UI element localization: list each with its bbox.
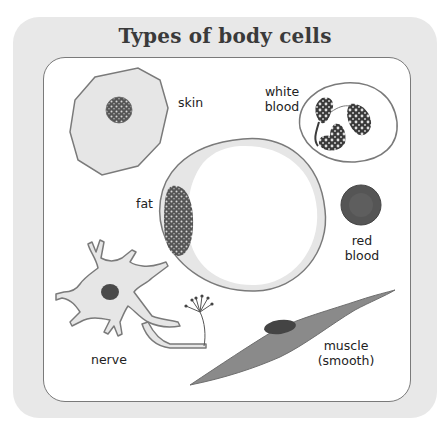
label-muscle-line1: muscle <box>313 338 379 353</box>
label-white-blood: white blood <box>260 84 304 114</box>
label-red-blood-line2: blood <box>340 248 384 263</box>
label-red-blood: red blood <box>340 233 384 263</box>
skin-cell-icon <box>70 68 168 175</box>
label-muscle-line2: (smooth) <box>313 353 379 368</box>
fat-cell-icon <box>160 139 326 291</box>
red-blood-cell-icon <box>341 185 381 225</box>
label-muscle: muscle (smooth) <box>313 338 379 368</box>
label-fat: fat <box>136 196 153 211</box>
label-skin: skin <box>178 95 203 110</box>
white-blood-cell-icon <box>300 83 398 162</box>
label-white-blood-line1: white <box>260 84 304 99</box>
label-white-blood-line2: blood <box>260 99 304 114</box>
label-red-blood-line1: red <box>340 233 384 248</box>
label-nerve: nerve <box>91 352 127 367</box>
